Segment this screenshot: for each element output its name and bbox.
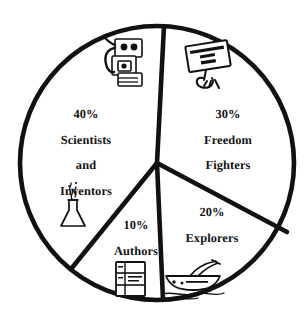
- slice-name-authors-line1: Authors: [104, 245, 168, 258]
- slice-label-authors: 10% Authors: [104, 206, 168, 270]
- slice-label-freedom-fighters: 30% Freedom Fighters: [182, 95, 274, 185]
- slice-percent-freedom: 30%: [182, 108, 274, 121]
- slice-name-freedom-line2: Fighters: [182, 159, 274, 172]
- slice-percent-scientists: 40%: [38, 108, 134, 121]
- slice-name-scientists-line1: Scientists: [38, 134, 134, 147]
- slice-percent-authors: 10%: [104, 219, 168, 232]
- robot-inventor-icon: [99, 34, 151, 88]
- slice-label-scientists: 40% Scientists and Inventors: [38, 95, 134, 211]
- slice-name-freedom-line1: Freedom: [182, 134, 274, 147]
- slice-name-scientists-line3: Inventors: [38, 185, 134, 198]
- explorer-ship-icon: [160, 258, 226, 304]
- pie-chart: 40% Scientists and Inventors 30% Freedom…: [0, 0, 308, 311]
- slice-label-explorers: 20% Explorers: [168, 193, 256, 257]
- protest-sign-hand-icon: [183, 36, 239, 92]
- slice-name-scientists-line2: and: [38, 159, 134, 172]
- slice-percent-explorers: 20%: [168, 206, 256, 219]
- slice-name-explorers-line1: Explorers: [168, 232, 256, 245]
